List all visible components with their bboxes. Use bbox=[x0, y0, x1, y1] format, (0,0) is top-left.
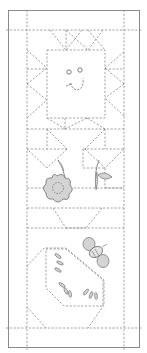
pattern-canvas bbox=[0, 0, 147, 353]
quilt-pattern-diagram bbox=[0, 0, 147, 353]
outer-frame bbox=[9, 11, 140, 348]
